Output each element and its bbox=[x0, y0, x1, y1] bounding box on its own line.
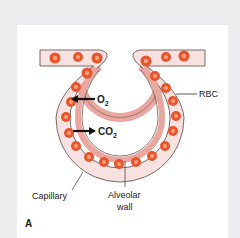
o2-label: O2 bbox=[97, 94, 109, 107]
panel-label: A bbox=[25, 218, 32, 229]
capillary-leader-line bbox=[72, 172, 83, 190]
alveolar-wall-label-line2: wall bbox=[116, 202, 133, 212]
co2-label: CO2 bbox=[98, 126, 117, 139]
alveolar-wall-label-line1: Alveolar bbox=[108, 190, 141, 200]
alveolus-capillary-diagram: O2 CO2 RBC Capillary Alveolar wall A bbox=[0, 0, 240, 238]
rbc-label: RBC bbox=[199, 89, 219, 99]
capillary-label: Capillary bbox=[32, 191, 68, 201]
